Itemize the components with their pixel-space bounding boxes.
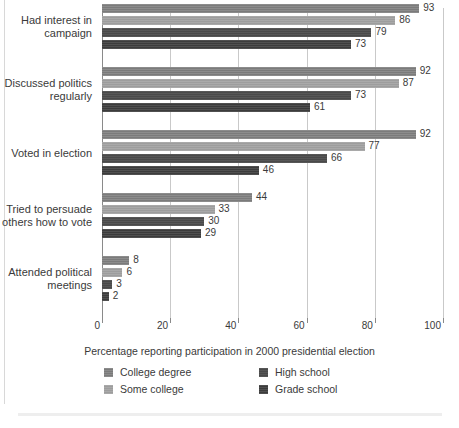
bar (102, 292, 109, 301)
bar-row: 77 (102, 142, 443, 151)
bar-row: 3 (102, 280, 443, 289)
category-label-line: others how to vote (0, 216, 92, 229)
bar-row: 73 (102, 91, 443, 100)
bar-value-label: 92 (420, 65, 431, 77)
bar (102, 16, 395, 25)
bar-value-label: 92 (420, 128, 431, 140)
x-tick-mark-0 (102, 318, 103, 323)
bar-value-label: 6 (126, 266, 132, 278)
bar-value-label: 61 (314, 101, 325, 113)
bar-row: 93 (102, 4, 443, 13)
legend-swatch-icon (259, 385, 268, 394)
legend-label: College degree (120, 366, 191, 378)
bar-value-label: 66 (331, 152, 342, 164)
bar (102, 280, 112, 289)
legend-label: Grade school (275, 383, 337, 395)
x-tick-mark-40 (238, 318, 239, 323)
bar-row: 29 (102, 229, 443, 238)
x-tick-label-100: 100 (417, 320, 441, 331)
bar-row: 73 (102, 40, 443, 49)
bar (102, 91, 351, 100)
bar-row: 92 (102, 130, 443, 139)
bar-row: 6 (102, 268, 443, 277)
category-label: Tried to persuadeothers how to vote (0, 203, 92, 229)
bar-value-label: 73 (355, 38, 366, 50)
bar (102, 103, 310, 112)
bar-value-label: 3 (116, 278, 122, 290)
x-tick-label-20: 20 (144, 320, 168, 331)
legend-label: High school (275, 366, 330, 378)
bar (102, 40, 351, 49)
bar (102, 193, 252, 202)
legend-item-some-college[interactable]: Some college (104, 383, 184, 395)
bar-value-label: 77 (369, 140, 380, 152)
bar-group: 8632 (102, 256, 443, 304)
bar-row: 2 (102, 292, 443, 301)
legend-item-college-degree[interactable]: College degree (104, 366, 191, 378)
bar-row: 33 (102, 205, 443, 214)
bar-value-label: 86 (399, 14, 410, 26)
bar-value-label: 30 (208, 215, 219, 227)
bar (102, 67, 416, 76)
x-tick-mark-20 (170, 318, 171, 323)
bar (102, 268, 122, 277)
plot-area: 938679739287736192776646443330298632 (102, 8, 443, 318)
bar-group: 44333029 (102, 193, 443, 241)
bar (102, 229, 201, 238)
bar (102, 166, 259, 175)
bar-row: 79 (102, 28, 443, 37)
x-tick-label-80: 80 (349, 320, 373, 331)
x-tick-label-0: 0 (76, 320, 100, 331)
category-label-line: campaign (0, 27, 92, 40)
bar-row: 44 (102, 193, 443, 202)
bar-row: 46 (102, 166, 443, 175)
bar-value-label: 87 (403, 77, 414, 89)
legend-item-grade-school[interactable]: Grade school (259, 383, 337, 395)
bar-row: 87 (102, 79, 443, 88)
bar (102, 217, 204, 226)
bar (102, 4, 419, 13)
x-tick-label-60: 60 (281, 320, 305, 331)
category-label-line: Attended political (0, 266, 92, 279)
x-tick-mark-100 (443, 318, 444, 323)
category-label: Voted in election (0, 147, 92, 160)
figure-left-border (4, 0, 5, 404)
legend-swatch-icon (104, 368, 113, 377)
category-label: Attended politicalmeetings (0, 266, 92, 292)
bar-row: 61 (102, 103, 443, 112)
bar-row: 86 (102, 16, 443, 25)
axis-title: Percentage reporting participation in 20… (0, 345, 459, 357)
legend-swatch-icon (259, 368, 268, 377)
category-label-line: regularly (0, 90, 92, 103)
category-label: Had interest incampaign (0, 14, 92, 40)
bar-row: 8 (102, 256, 443, 265)
bar-row: 92 (102, 67, 443, 76)
legend-item-high-school[interactable]: High school (259, 366, 330, 378)
bar-value-label: 46 (263, 164, 274, 176)
category-label-line: Voted in election (0, 147, 92, 160)
bar (102, 130, 416, 139)
bar-row: 30 (102, 217, 443, 226)
bar-value-label: 73 (355, 89, 366, 101)
category-label-line: Discussed politics (0, 77, 92, 90)
bar (102, 154, 327, 163)
x-tick-label-40: 40 (212, 320, 236, 331)
bar-row: 66 (102, 154, 443, 163)
bar-group: 92877361 (102, 67, 443, 115)
x-tick-mark-60 (307, 318, 308, 323)
legend-label: Some college (120, 383, 184, 395)
chart-figure: 938679739287736192776646443330298632 Had… (0, 0, 459, 428)
bar (102, 256, 129, 265)
bar (102, 205, 215, 214)
legend-swatch-icon (104, 385, 113, 394)
category-label-line: Had interest in (0, 14, 92, 27)
bar (102, 142, 365, 151)
gridline-100 (443, 8, 444, 318)
x-tick-mark-80 (375, 318, 376, 323)
category-label: Discussed politicsregularly (0, 77, 92, 103)
bar-group: 93867973 (102, 4, 443, 52)
bar-value-label: 44 (256, 191, 267, 203)
footer-band (18, 413, 442, 416)
bar (102, 79, 399, 88)
category-label-line: meetings (0, 279, 92, 292)
